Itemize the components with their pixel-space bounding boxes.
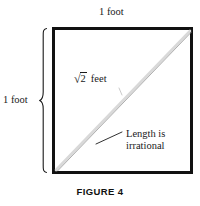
irrational-annotation-line2: irrational <box>126 140 188 152</box>
radicand: 2 <box>80 72 87 85</box>
figure-container: 1 foot 1 foot √2feet Length is irrationa… <box>0 0 200 206</box>
left-brace <box>40 29 47 173</box>
irrational-annotation-line1: Length is <box>126 128 188 140</box>
diagonal-length-unit: feet <box>91 73 107 84</box>
figure-caption: FIGURE 4 <box>0 186 200 197</box>
irrational-annotation: Length is irrational <box>126 128 188 153</box>
top-dimension-label: 1 foot <box>99 6 124 18</box>
left-dimension-label: 1 foot <box>3 94 28 106</box>
radical-expression: √2 <box>73 72 87 86</box>
diagonal-length-label: √2feet <box>73 72 107 86</box>
